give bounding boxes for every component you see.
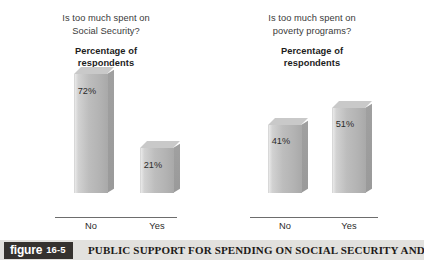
bar-value-social-security-yes: 21% — [128, 160, 178, 170]
chart-panel-poverty-programs: Is too much spent on poverty programs? P… — [206, 0, 418, 238]
figure-number-tag: figure 16-5 — [4, 242, 73, 259]
plot-area-social-security: 72% 21% No Yes — [0, 0, 212, 238]
bar-front-face — [268, 125, 302, 193]
bar-value-poverty-yes: 51% — [320, 119, 370, 129]
category-label-no: No — [260, 221, 310, 231]
category-label-no: No — [66, 221, 116, 231]
chart-panel-social-security: Is too much spent on Social Security? Pe… — [0, 0, 212, 238]
bar-front-face — [140, 148, 174, 193]
bar-side-face — [365, 103, 372, 192]
bar-social-security-yes — [140, 148, 173, 193]
bar-side-face — [301, 120, 308, 192]
figure-tag-word: figure — [10, 244, 42, 256]
bar-poverty-no — [268, 125, 301, 193]
x-axis-line — [250, 217, 378, 219]
charts-area: Is too much spent on Social Security? Pe… — [0, 0, 424, 238]
plot-area-poverty-programs: 41% 51% No Yes — [206, 0, 418, 238]
category-label-yes: Yes — [132, 221, 182, 231]
category-label-yes: Yes — [324, 221, 374, 231]
figure-caption-text: PUBLIC SUPPORT FOR SPENDING ON SOCIAL SE… — [88, 244, 424, 256]
figure-caption-bar: figure 16-5 PUBLIC SUPPORT FOR SPENDING … — [0, 240, 424, 260]
bar-value-poverty-no: 41% — [256, 136, 306, 146]
x-axis-line — [55, 217, 177, 219]
figure-tag-number: 16-5 — [46, 245, 65, 255]
figure-16-5: Is too much spent on Social Security? Pe… — [0, 0, 424, 262]
bar-value-social-security-no: 72% — [62, 86, 112, 96]
